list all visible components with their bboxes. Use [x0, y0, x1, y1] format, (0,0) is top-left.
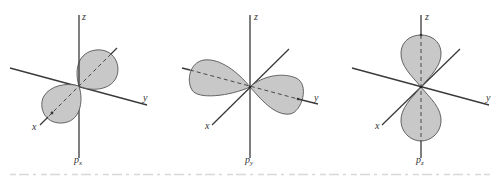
axis-arrow-dot [420, 34, 423, 37]
y-axis-label: y [142, 92, 148, 103]
orbital-label: px [73, 154, 83, 167]
panel-px: z y x px [10, 11, 148, 167]
y-axis-label: y [313, 92, 319, 103]
x-axis-label: x [204, 120, 210, 131]
panel-py: z y x py [182, 11, 319, 167]
x-axis [40, 117, 48, 125]
orbital-label: py [244, 154, 254, 167]
y-axis [182, 68, 190, 70]
truncated-caption [10, 173, 490, 176]
y-axis-label: y [485, 92, 491, 103]
p-orbitals-figure: z y x px z y x py [0, 0, 503, 176]
orbital-label: pz [415, 154, 424, 167]
x-axis-label: x [31, 121, 37, 132]
x-axis-label: x [374, 120, 380, 131]
x-axis [111, 48, 117, 54]
z-axis-label: z [81, 11, 86, 22]
panel-pz: z y x pz [352, 11, 491, 167]
origin-dot [420, 86, 423, 89]
axis-arrow-dot [51, 112, 54, 115]
origin-dot [249, 86, 252, 89]
orbital-lobe-positive [250, 75, 303, 114]
axis-arrow-dot [297, 98, 300, 101]
z-axis-label: z [253, 11, 258, 22]
z-axis-label: z [424, 11, 429, 22]
orbital-lobe-positive [77, 50, 118, 89]
